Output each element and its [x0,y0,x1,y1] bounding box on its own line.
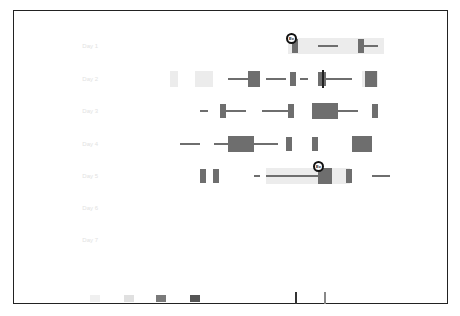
timeline-segment-dark [312,137,318,151]
timeline-segment-line [254,175,260,177]
legend-line [295,292,297,304]
chart-frame [13,10,448,304]
timeline-segment-dark [213,169,219,183]
timeline-segment-dark [286,137,292,151]
timeline-segment-dark [200,169,206,183]
timeline-segment-dark [346,169,352,183]
y-axis-label: Day 5 [18,172,98,180]
legend-swatch [156,295,166,302]
timeline-segment-dark [290,72,296,86]
y-axis-label: Day 4 [18,140,98,148]
legend-swatch [124,295,134,302]
timeline-segment-dark [365,71,377,87]
timeline-segment-line [214,143,228,145]
timeline-segment-line [266,175,318,177]
timeline-segment-dark [372,104,378,118]
timeline-segment-dark [228,136,254,152]
y-axis-label: Day 1 [18,42,98,50]
legend-swatch [190,295,200,302]
timeline-segment-line [300,78,308,80]
timeline-segment-line [338,110,358,112]
timeline-segment-line [266,78,286,80]
timeline-segment-line [226,110,246,112]
timeline-segment-line [318,45,338,47]
timeline-segment-line [180,143,200,145]
timeline-segment-dark [248,71,260,87]
event-marker-icon[interactable]: Ev [286,33,297,44]
legend-swatch [90,295,100,302]
timeline-segment-line [254,143,278,145]
timeline-segment-light [195,71,213,87]
timeline-segment-line [228,78,248,80]
y-axis-label: Day 6 [18,204,98,212]
timeline-segment-dark [288,104,294,118]
timeline-segment-line [262,110,288,112]
timeline-segment-dark [352,136,372,152]
y-axis-label: Day 7 [18,236,98,244]
timeline-segment-line [326,78,352,80]
timeline-segment-light [170,71,178,87]
y-axis-label: Day 2 [18,75,98,83]
y-axis-label: Day 3 [18,107,98,115]
timeline-segment-black [322,70,324,88]
timeline-segment-line [372,175,390,177]
timeline-segment-line [364,45,378,47]
timeline-segment-dark [312,103,338,119]
legend-line [324,292,326,304]
timeline-segment-line [200,110,208,112]
event-marker-icon[interactable]: Ev [313,161,324,172]
